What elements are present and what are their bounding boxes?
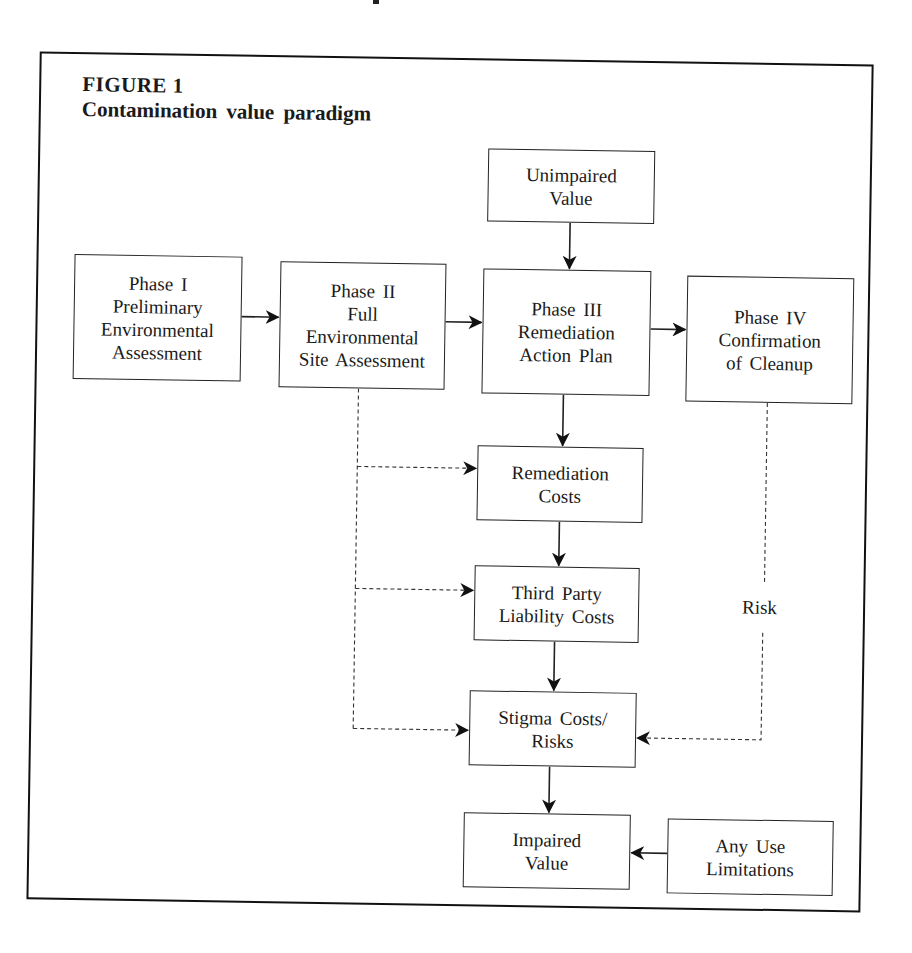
arrow-remediation-thirdparty: [559, 522, 560, 566]
dashed-arrow-thirdparty: [355, 588, 473, 590]
arrow-phase2-phase3: [445, 322, 482, 323]
figure: FIGURE 1 Contamination value paradigm: [0, 0, 912, 953]
node-unimpaired-value: Unimpaired Value: [487, 148, 655, 224]
node-line: Environmental: [299, 325, 425, 350]
node-line: Preliminary: [101, 294, 214, 319]
arrow-stigma-impaired: [549, 767, 550, 813]
node-line: of Cleanup: [718, 351, 821, 376]
node-line: Limitations: [706, 856, 794, 880]
node-third-party-liability-costs: Third Party Liability Costs: [474, 565, 640, 643]
arrow-phase3-remediation: [563, 395, 564, 446]
node-line: Remediation: [511, 460, 608, 485]
node-line: Value: [512, 850, 581, 874]
node-remediation-costs: Remediation Costs: [476, 445, 643, 523]
dashed-risk-lower: [637, 631, 763, 740]
node-phase-2: Phase II Full Environmental Site Assessm…: [279, 261, 447, 390]
node-line: Risks: [498, 728, 607, 753]
node-line: Impaired: [512, 827, 581, 851]
arrow-phase3-phase4: [650, 329, 685, 330]
dashed-trunk-phase2: [353, 388, 358, 728]
node-line: Phase I: [101, 271, 214, 296]
node-stigma-costs-risks: Stigma Costs/ Risks: [469, 690, 637, 768]
node-line: Value: [525, 186, 616, 210]
node-line: Remediation: [518, 320, 615, 345]
node-line: Environmental: [101, 317, 214, 342]
node-line: Liability Costs: [499, 603, 615, 628]
node-line: Any Use: [706, 833, 794, 857]
arrow-thirdparty-stigma: [554, 642, 555, 691]
node-phase-3: Phase III Remediation Action Plan: [481, 268, 651, 396]
node-line: Phase IV: [719, 305, 822, 330]
node-line: Action Plan: [517, 343, 614, 368]
node-line: Third Party: [499, 580, 615, 605]
node-impaired-value: Impaired Value: [463, 812, 631, 890]
node-phase-1: Phase I Preliminary Environmental Assess…: [73, 254, 243, 382]
node-line: Unimpaired: [526, 163, 617, 187]
node-line: Site Assessment: [299, 348, 425, 373]
node-line: Assessment: [100, 340, 213, 365]
arrow-unimpaired-phase3: [569, 223, 570, 269]
node-line: Confirmation: [718, 328, 821, 353]
dashed-arrow-remediation: [357, 466, 476, 468]
node-line: Stigma Costs/: [498, 705, 607, 730]
edge-label-risk: Risk: [742, 597, 777, 620]
arrow-anyuse-impaired: [631, 853, 667, 854]
node-line: Phase II: [300, 279, 426, 304]
node-phase-4: Phase IV Confirmation of Cleanup: [685, 276, 854, 405]
node-line: Costs: [511, 483, 608, 508]
dashed-arrow-stigma: [353, 728, 468, 730]
connectors: [0, 0, 912, 953]
arrow-phase1-phase2: [241, 317, 279, 318]
node-line: Phase III: [518, 297, 615, 322]
dashed-risk-upper: [764, 403, 767, 585]
node-line: Full: [300, 302, 426, 327]
node-any-use-limitations: Any Use Limitations: [667, 818, 834, 896]
